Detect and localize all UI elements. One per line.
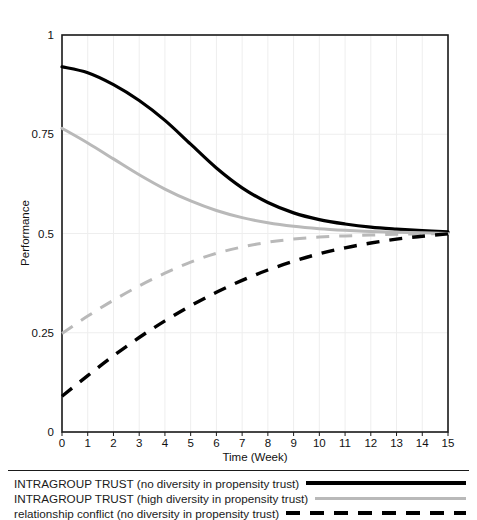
x-axis-tick-labels: 0123456789101112131415	[59, 432, 455, 449]
series-line-0	[62, 67, 448, 232]
y-tick-label: 0	[48, 426, 54, 438]
x-axis-title: Time (Week)	[222, 451, 287, 463]
series-line-3	[62, 234, 448, 396]
x-tick-label: 14	[416, 437, 429, 449]
y-tick-label: 0.5	[38, 228, 54, 240]
legend-label: INTRAGROUP TRUST (high diversity in prop…	[14, 492, 308, 505]
legend-line-sample-solid-black	[306, 477, 466, 489]
x-tick-label: 3	[136, 437, 142, 449]
y-tick-label: 0.25	[32, 327, 54, 339]
x-tick-label: 11	[339, 437, 351, 449]
legend-label: INTRAGROUP TRUST (no diversity in propen…	[14, 477, 299, 490]
y-axis-title: Performance	[19, 200, 31, 266]
legend-separator	[8, 470, 469, 471]
performance-line-chart: 0123456789101112131415 00.250.50.751 Tim…	[0, 0, 477, 466]
series-line-2	[62, 234, 448, 334]
x-tick-label: 12	[364, 437, 377, 449]
legend-label: relationship conflict (no diversity in p…	[14, 507, 279, 520]
y-axis-tick-labels: 00.250.50.751	[32, 29, 54, 438]
legend-item-relationship-conflict-no-diversity: relationship conflict (no diversity in p…	[14, 506, 466, 520]
chart-legend: INTRAGROUP TRUST (no diversity in propen…	[0, 468, 477, 514]
x-tick-label: 4	[162, 437, 169, 449]
series-lines	[62, 67, 448, 397]
x-tick-label: 15	[442, 437, 455, 449]
x-tick-label: 0	[59, 437, 65, 449]
x-tick-label: 1	[85, 437, 91, 449]
y-tick-label: 0.75	[32, 128, 54, 140]
x-tick-label: 7	[239, 437, 245, 449]
x-tick-label: 5	[187, 437, 193, 449]
x-tick-label: 10	[313, 437, 326, 449]
y-tick-label: 1	[48, 29, 54, 41]
legend-line-sample-dashed-black	[286, 507, 466, 519]
x-tick-label: 2	[110, 437, 116, 449]
legend-item-intragroup-trust-high-diversity: INTRAGROUP TRUST (high diversity in prop…	[14, 491, 466, 505]
plot-area-wrapper: 0123456789101112131415 00.250.50.751 Tim…	[0, 0, 477, 466]
x-tick-label: 6	[213, 437, 219, 449]
legend-line-sample-solid-gray	[315, 492, 466, 504]
x-tick-label: 13	[390, 437, 403, 449]
series-line-1	[62, 128, 448, 233]
legend-item-intragroup-trust-no-diversity: INTRAGROUP TRUST (no diversity in propen…	[14, 476, 466, 490]
x-tick-label: 9	[290, 437, 296, 449]
x-tick-label: 8	[265, 437, 271, 449]
